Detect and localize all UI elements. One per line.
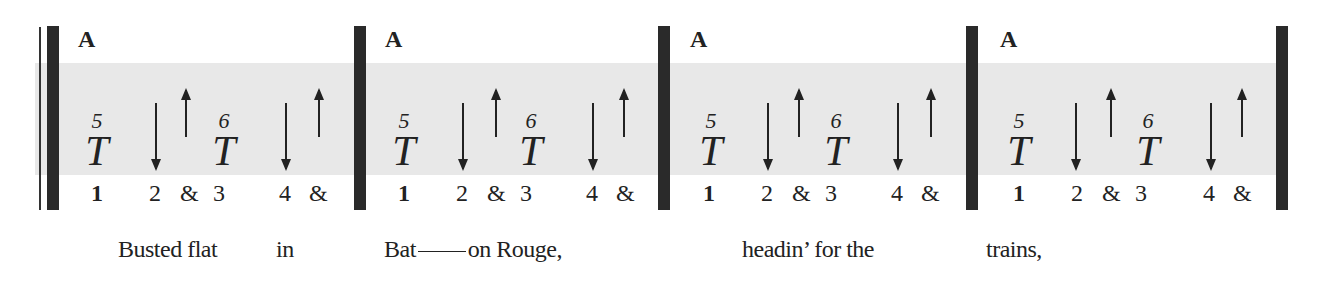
- strum-down-arrow-icon: [767, 103, 769, 169]
- strum-up-arrow-icon: [495, 90, 497, 137]
- chord-label: A: [385, 26, 402, 53]
- end-barline: [1276, 26, 1288, 210]
- beat-count: 1: [703, 180, 715, 207]
- tab-note: 5T: [82, 110, 112, 170]
- beat-count: &: [180, 180, 199, 207]
- melisma-line: [418, 251, 466, 252]
- beat-count: &: [792, 180, 811, 207]
- barline: [966, 26, 978, 210]
- tab-note: 5T: [1004, 110, 1034, 170]
- tab-note: 6T: [516, 110, 546, 170]
- strum-up-arrow-icon: [185, 90, 187, 137]
- lyric: Baton Rouge,: [384, 236, 562, 263]
- thumb-marker: T: [1133, 132, 1163, 170]
- strum-down-arrow-icon: [155, 103, 157, 169]
- beat-count: 4: [891, 180, 903, 207]
- beat-count: &: [921, 180, 940, 207]
- thumb-marker: T: [1004, 132, 1034, 170]
- strum-down-arrow-icon: [1075, 103, 1077, 169]
- thumb-marker: T: [516, 132, 546, 170]
- strum-up-arrow-icon: [1110, 90, 1112, 137]
- tab-note: 6T: [1133, 110, 1163, 170]
- beat-count: &: [1233, 180, 1252, 207]
- strum-up-arrow-icon: [318, 90, 320, 137]
- lyric-part: on Rouge,: [468, 236, 562, 262]
- lyric: Busted flat: [118, 236, 217, 263]
- beat-count: 3: [520, 180, 532, 207]
- tab-note: 5T: [696, 110, 726, 170]
- strum-up-arrow-icon: [1241, 90, 1243, 137]
- beat-count: 3: [825, 180, 837, 207]
- tab-note: 5T: [389, 110, 419, 170]
- strum-down-arrow-icon: [592, 103, 594, 169]
- beat-count: 4: [279, 180, 291, 207]
- thumb-marker: T: [696, 132, 726, 170]
- beat-count: &: [616, 180, 635, 207]
- lyric: in: [276, 236, 294, 263]
- strum-down-arrow-icon: [462, 103, 464, 169]
- thumb-marker: T: [821, 132, 851, 170]
- thumb-marker: T: [82, 132, 112, 170]
- strum-down-arrow-icon: [1210, 103, 1212, 169]
- strum-down-arrow-icon: [897, 103, 899, 169]
- beat-count: 2: [1071, 180, 1083, 207]
- beat-count: 4: [1203, 180, 1215, 207]
- lyric-part: Bat: [384, 236, 416, 262]
- beat-count: 3: [1135, 180, 1147, 207]
- beat-count: &: [309, 180, 328, 207]
- barline: [354, 26, 366, 210]
- strum-up-arrow-icon: [930, 90, 932, 137]
- beat-count: 2: [149, 180, 161, 207]
- beat-count: 2: [761, 180, 773, 207]
- chord-label: A: [78, 26, 95, 53]
- beat-count: 4: [586, 180, 598, 207]
- start-barline-thin: [39, 27, 41, 210]
- beat-count: 1: [91, 180, 103, 207]
- beat-count: &: [487, 180, 506, 207]
- barline: [658, 26, 670, 210]
- chord-label: A: [1000, 26, 1017, 53]
- tab-note: 6T: [209, 110, 239, 170]
- lyric: trains,: [986, 236, 1042, 263]
- beat-count: 3: [213, 180, 225, 207]
- tab-note: 6T: [821, 110, 851, 170]
- beat-count: 1: [1013, 180, 1025, 207]
- thumb-marker: T: [209, 132, 239, 170]
- strum-down-arrow-icon: [285, 103, 287, 169]
- beat-count: 1: [398, 180, 410, 207]
- lyric: headin’ for the: [742, 236, 874, 263]
- thumb-marker: T: [389, 132, 419, 170]
- start-barline-thick: [47, 26, 59, 210]
- strum-up-arrow-icon: [623, 90, 625, 137]
- beat-count: &: [1102, 180, 1121, 207]
- chord-label: A: [690, 26, 707, 53]
- strum-up-arrow-icon: [798, 90, 800, 137]
- beat-count: 2: [456, 180, 468, 207]
